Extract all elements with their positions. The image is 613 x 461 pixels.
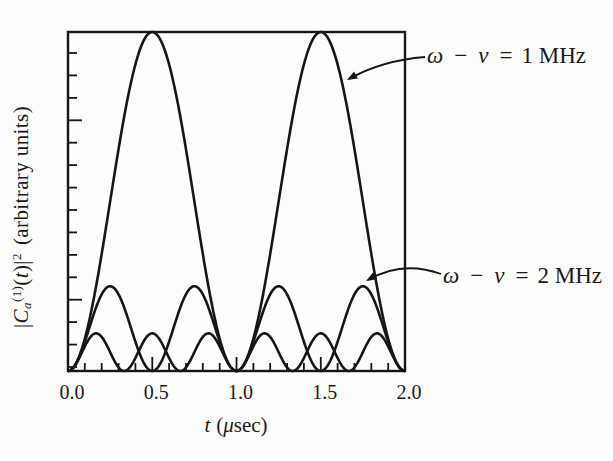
plot-frame bbox=[68, 32, 405, 371]
x-tick-label: 0.0 bbox=[50, 381, 94, 404]
x-axis-title: t(μsec) bbox=[136, 413, 336, 438]
x-tick-label: 1.0 bbox=[219, 381, 263, 404]
annotation-label-2mhz: ω − ν=2 MHz bbox=[443, 263, 602, 289]
x-tick-label: 0.5 bbox=[134, 381, 178, 404]
annotation-arrow-1mhz bbox=[347, 57, 425, 80]
annotation-label-1mhz: ω − ν=1 MHz bbox=[427, 43, 586, 69]
y-axis-ticks bbox=[68, 53, 82, 367]
y-axis-label: |Ca(1)(t)|2(arbitrary units) bbox=[9, 106, 36, 328]
annotation-arrow-2mhz bbox=[366, 268, 441, 281]
x-tick-label: 2.0 bbox=[387, 381, 431, 404]
x-tick-label: 1.5 bbox=[303, 381, 347, 404]
curve-1mhz bbox=[68, 32, 405, 371]
figure-canvas: |Ca(1)(t)|2(arbitrary units) 0.00.51.01.… bbox=[0, 0, 613, 461]
